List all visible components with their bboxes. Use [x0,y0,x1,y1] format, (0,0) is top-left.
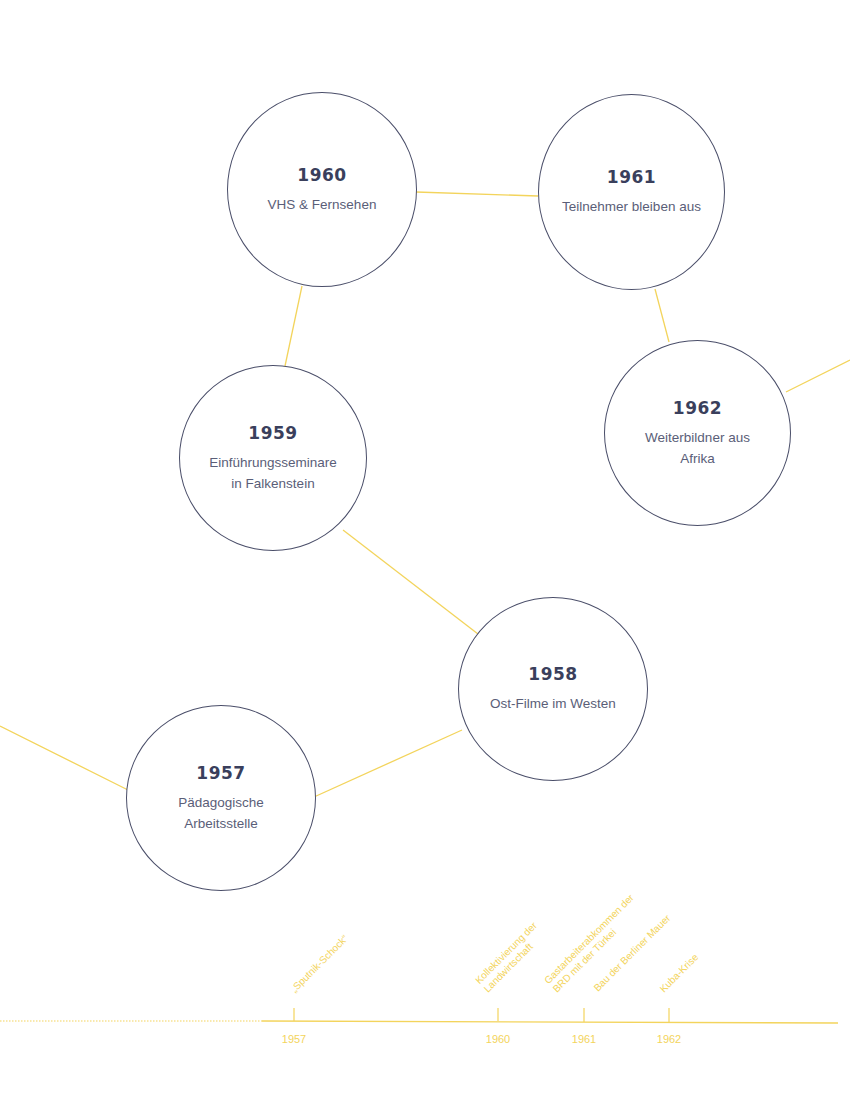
node-1961[interactable]: 1961 Teilnehmer bleiben aus [538,94,725,290]
node-title: Weiterbildner ausAfrika [645,427,750,469]
node-1957[interactable]: 1957 PädagogischeArbeitsstelle [126,705,316,891]
connector-line [655,289,669,342]
timeline-tick-label: 1961 [572,1033,596,1045]
timeline-tick-label: 1962 [657,1033,681,1045]
connector-line [314,730,462,797]
connector-line [0,726,128,790]
history-timeline-diagram: 1960 VHS & Fernsehen 1961 Teilnehmer ble… [0,0,850,1095]
node-year: 1957 [196,763,245,783]
node-year: 1959 [248,423,297,443]
timeline-tick-label: 1960 [486,1033,510,1045]
node-title: VHS & Fernsehen [268,194,377,215]
node-1962[interactable]: 1962 Weiterbildner ausAfrika [604,340,791,526]
timeline-tick-label: 1957 [282,1033,306,1045]
connector-line [786,360,850,392]
connector-lines [0,0,850,1095]
node-year: 1961 [607,167,656,187]
node-year: 1962 [673,398,722,418]
connector-line [343,530,478,634]
node-year: 1958 [528,664,577,684]
node-title: PädagogischeArbeitsstelle [178,792,264,834]
node-1958[interactable]: 1958 Ost-Filme im Westen [458,597,648,781]
timeline-axis [262,1021,838,1023]
node-1959[interactable]: 1959 Einführungsseminarein Falkenstein [179,365,367,551]
node-title: Teilnehmer bleiben aus [562,196,701,217]
node-title: Ost-Filme im Westen [490,693,616,714]
connector-line [416,192,538,196]
node-title: Einführungsseminarein Falkenstein [209,452,337,494]
node-year: 1960 [297,165,346,185]
node-1960[interactable]: 1960 VHS & Fernsehen [227,92,417,287]
connector-line [285,286,302,366]
